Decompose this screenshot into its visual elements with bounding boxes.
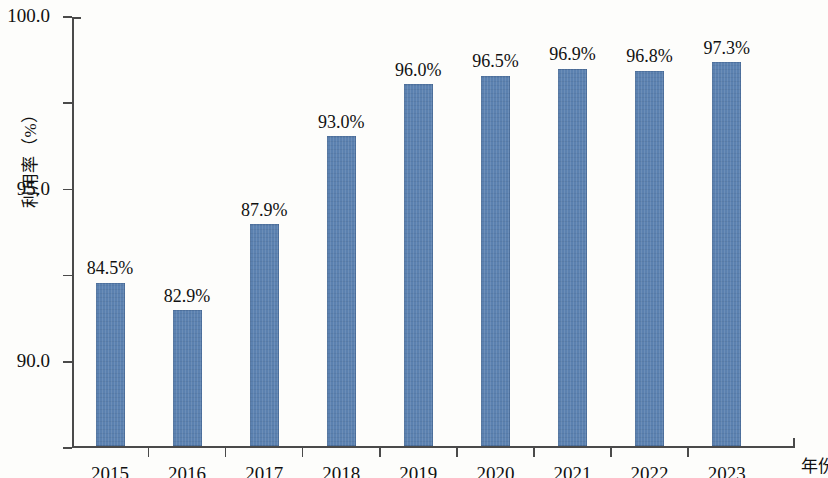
bar	[712, 62, 741, 446]
y-axis-tick: 85.0	[63, 275, 72, 277]
plot-area: 100.095.090.085.080.075.0 20152016201720…	[72, 17, 795, 448]
x-axis-tick-label: 2019	[399, 463, 437, 478]
x-axis-tick	[302, 448, 304, 457]
x-axis-tick-label: 2015	[91, 463, 129, 478]
x-axis-tick	[148, 448, 150, 457]
x-axis-title: 年份	[801, 452, 828, 477]
x-axis-tick-label: 2020	[476, 463, 514, 478]
bar-value-label: 87.9%	[241, 200, 288, 221]
bar	[558, 69, 587, 447]
y-axis-tick-label: 90.0	[17, 350, 50, 372]
y-axis-tick: 95.0	[63, 102, 72, 104]
y-axis-tick: 90.0	[63, 189, 72, 191]
x-axis-tick	[225, 448, 227, 457]
bar-value-label: 96.8%	[626, 46, 673, 67]
bar	[96, 283, 125, 447]
x-axis-right-cap	[793, 438, 795, 448]
y-axis-title: 利用率（%）	[16, 77, 41, 237]
bar	[327, 136, 356, 446]
bar-value-label: 97.3%	[703, 38, 750, 59]
x-axis-tick-label: 2017	[245, 463, 283, 478]
x-axis-tick-label: 2023	[708, 463, 746, 478]
bar-value-label: 96.9%	[549, 44, 596, 65]
y-axis-tick: 75.0	[63, 447, 72, 449]
bar	[481, 76, 510, 447]
bar	[404, 84, 433, 446]
y-axis-tick-label: 100.0	[7, 5, 50, 27]
x-axis-tick	[379, 448, 381, 457]
y-axis-tick: 100.0	[63, 16, 72, 18]
x-axis-tick	[533, 448, 535, 457]
bar	[173, 310, 202, 446]
x-axis-tick-label: 2016	[168, 463, 206, 478]
bar-value-label: 93.0%	[318, 112, 365, 133]
x-axis-tick	[456, 448, 458, 457]
y-axis-top-cap	[72, 17, 81, 19]
y-axis-tick-label: 95.0	[17, 177, 50, 199]
y-axis-line	[72, 17, 74, 448]
x-axis-tick-label: 2022	[631, 463, 669, 478]
bar-value-label: 84.5%	[87, 258, 134, 279]
y-axis-tick: 80.0	[63, 361, 72, 363]
x-axis-tick-label: 2021	[553, 463, 591, 478]
bar	[250, 224, 279, 446]
bar-value-label: 96.0%	[395, 60, 442, 81]
x-axis-tick	[687, 448, 689, 457]
bar	[635, 71, 664, 447]
bar-value-label: 96.5%	[472, 51, 519, 72]
bar-chart: 利用率（%） 100.095.090.085.080.075.0 2015201…	[0, 0, 828, 478]
x-axis-tick	[610, 448, 612, 457]
bar-value-label: 82.9%	[164, 286, 211, 307]
x-axis-tick-label: 2018	[322, 463, 360, 478]
